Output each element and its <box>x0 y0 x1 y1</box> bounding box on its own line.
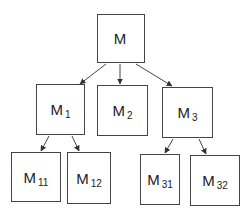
node-subscript: 31 <box>162 179 173 190</box>
tree-diagram: M M1 M2 M3 M11 M12 M31 M32 <box>0 0 252 220</box>
node-m32: M32 <box>190 155 240 206</box>
node-label: M <box>76 170 89 187</box>
edge-arrow-m1-m11 <box>41 136 49 151</box>
node-m: M <box>97 14 145 63</box>
edge-arrow-m3-m32 <box>199 139 206 154</box>
node-subscript: 3 <box>192 112 198 123</box>
node-m11: M11 <box>11 152 61 202</box>
node-subscript: 1 <box>65 109 71 120</box>
node-m12: M12 <box>67 152 111 204</box>
node-m3: M3 <box>162 87 213 138</box>
edge-arrow-m1-m12 <box>72 136 79 151</box>
node-m31: M31 <box>140 154 180 205</box>
node-label: M <box>147 171 160 188</box>
node-label: M <box>114 30 127 47</box>
edge-arrow-m-m1 <box>80 64 106 84</box>
node-label: M <box>112 102 125 119</box>
node-subscript: 32 <box>217 180 228 191</box>
node-subscript: 12 <box>91 178 102 189</box>
edge-arrow-m3-m31 <box>165 139 173 153</box>
node-label: M <box>24 169 37 186</box>
node-label: M <box>202 172 215 189</box>
node-m1: M1 <box>36 84 85 135</box>
node-label: M <box>50 101 63 118</box>
node-subscript: 2 <box>127 110 133 121</box>
node-label: M <box>177 104 190 121</box>
edge-arrow-m-m3 <box>136 64 172 86</box>
node-m2: M2 <box>97 85 148 136</box>
node-subscript: 11 <box>38 177 48 188</box>
